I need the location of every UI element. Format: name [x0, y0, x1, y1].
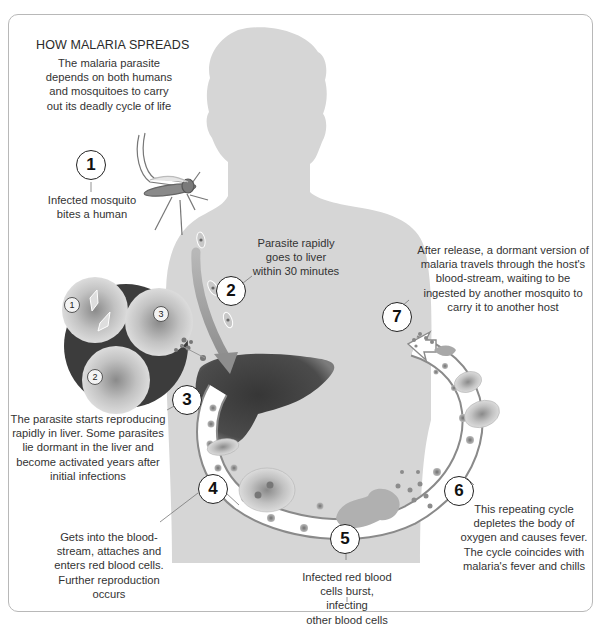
step-2-line: goes to liver	[244, 250, 348, 264]
step-2-text: Parasite rapidly goes to liver within 30…	[244, 236, 348, 279]
diagram-title: HOW MALARIA SPREADS	[36, 38, 189, 52]
step-2-line: Parasite rapidly	[244, 236, 348, 250]
step-5-line: Infected red blood	[298, 570, 396, 584]
step-3-line: lie dormant in the liver and	[8, 440, 168, 454]
step-7-line: malaria travels through the host's	[414, 257, 592, 271]
intro-line: out its deadly cycle of life	[36, 99, 182, 113]
step-2-badge: 2	[216, 276, 246, 306]
step-6-line: malaria's fever and chills	[460, 559, 588, 573]
inset-label-1: 1	[64, 297, 80, 313]
step-5-line: cells burst, infecting	[298, 584, 396, 612]
step-6-text: This repeating cycle depletes the body o…	[460, 502, 588, 573]
step-3-badge: 3	[172, 385, 202, 415]
step-6-line: This repeating cycle	[460, 502, 588, 516]
step-4-line: occurs	[54, 587, 164, 601]
step-4-line: enters red blood cells.	[54, 558, 164, 572]
step-3-line: rapidly in liver. Some parasites	[8, 426, 168, 440]
step-2-line: within 30 minutes	[244, 264, 348, 278]
intro-text: The malaria parasite depends on both hum…	[36, 56, 182, 113]
intro-line: depends on both humans	[36, 70, 182, 84]
step-7-line: carry it to another host	[414, 300, 592, 314]
step-7-line: blood-stream, waiting to be	[414, 271, 592, 285]
step-1-badge: 1	[76, 150, 106, 180]
step-5-badge: 5	[330, 524, 360, 554]
step-7-badge: 7	[382, 302, 412, 332]
step-6-line: depletes the body of	[460, 516, 588, 530]
step-1-line: bites a human	[36, 207, 148, 221]
step-6-line: oxygen and causes fever.	[460, 530, 588, 544]
step-3-line: become activated years after	[8, 455, 168, 469]
step-6-line: The cycle coincides with	[460, 545, 588, 559]
step-3-line: initial infections	[8, 469, 168, 483]
step-4-line: Further reproduction	[54, 573, 164, 587]
step-1-line: Infected mosquito	[36, 193, 148, 207]
step-4-text: Gets into the blood- stream, attaches an…	[54, 530, 164, 601]
step-1-text: Infected mosquito bites a human	[36, 193, 148, 221]
inset-label-2: 2	[87, 369, 103, 385]
step-7-line: ingested by another mosquito to	[414, 286, 592, 300]
step-4-line: stream, attaches and	[54, 544, 164, 558]
step-4-line: Gets into the blood-	[54, 530, 164, 544]
step-7-line: After release, a dormant version of	[414, 243, 592, 257]
step-5-text: Infected red blood cells burst, infectin…	[298, 570, 396, 627]
step-4-badge: 4	[198, 474, 228, 504]
step-3-text: The parasite starts reproducing rapidly …	[8, 412, 168, 483]
inset-label-3: 3	[153, 306, 169, 322]
step-5-line: other blood cells	[298, 613, 396, 627]
intro-line: and mosquitoes to carry	[36, 84, 182, 98]
step-3-line: The parasite starts reproducing	[8, 412, 168, 426]
step-7-text: After release, a dormant version of mala…	[414, 243, 592, 314]
intro-line: The malaria parasite	[36, 56, 182, 70]
